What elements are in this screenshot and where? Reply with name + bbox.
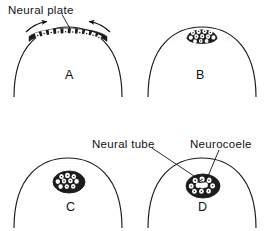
neural-tube-label: Neural tube	[92, 138, 155, 150]
panel-letter-a: A	[65, 68, 74, 82]
panel-letter-c: C	[66, 200, 75, 214]
neural-tube-leader-line	[152, 148, 203, 182]
neural-plate-band	[29, 28, 107, 41]
neural-tube-c	[53, 171, 85, 193]
panel-b: B	[148, 27, 256, 97]
neurocoele-lumen	[199, 183, 205, 189]
neural-plate-label: Neural plate	[8, 4, 74, 16]
neurulation-figure: Neural plate A	[0, 0, 270, 231]
neurocoele-label: Neurocoele	[190, 138, 252, 150]
panel-a: Neural plate A	[8, 4, 122, 97]
neural-tube-d	[186, 174, 220, 198]
panel-d: D	[148, 158, 256, 228]
neural-plate-leader-line	[62, 15, 70, 29]
panel-letter-d: D	[198, 200, 207, 214]
panel-c: C	[14, 158, 122, 228]
neural-fold-mound	[187, 29, 217, 44]
panel-letter-b: B	[196, 68, 204, 82]
